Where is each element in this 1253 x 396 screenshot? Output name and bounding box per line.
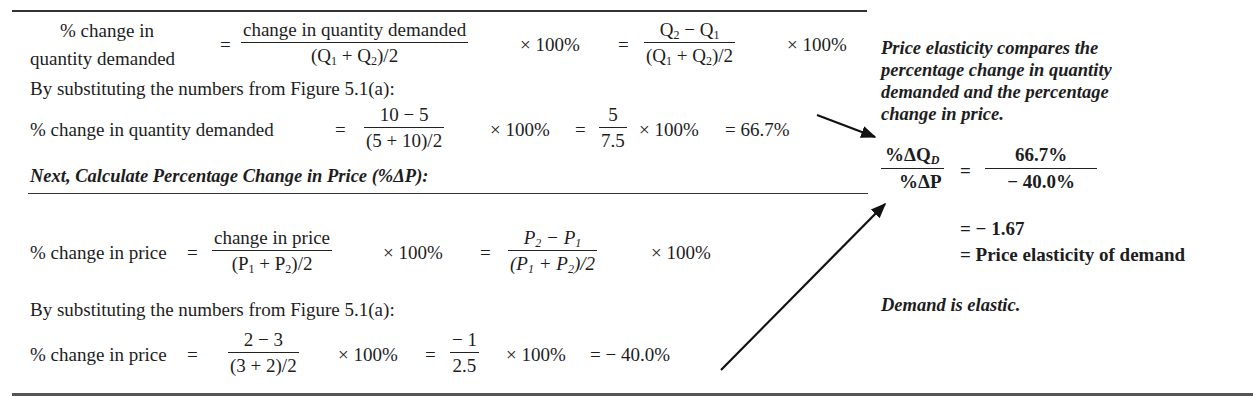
arrow-icon — [0, 0, 1253, 396]
